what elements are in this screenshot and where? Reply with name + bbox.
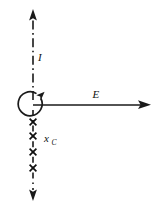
charge-label: x C: [43, 132, 58, 147]
charge-label-subscript: C: [52, 138, 58, 147]
current-arrowhead-down-icon: [29, 190, 37, 202]
cross-mark: [30, 133, 37, 140]
electric-field-vector: [33, 100, 151, 109]
cross-mark: [30, 119, 37, 126]
circulation-arrowhead-icon: [36, 92, 44, 101]
magnetic-circulation-arc: [18, 92, 44, 116]
current-axis-upper: [29, 9, 37, 100]
diagram-canvas: I E x C: [0, 0, 155, 206]
physics-diagram: I E x C: [0, 0, 155, 206]
electric-field-label: E: [92, 88, 100, 100]
current-label: I: [37, 51, 43, 63]
cross-mark: [30, 149, 37, 156]
charge-label-base: x: [43, 132, 49, 144]
current-arrowhead-up-icon: [29, 9, 37, 21]
cross-mark: [30, 165, 37, 172]
